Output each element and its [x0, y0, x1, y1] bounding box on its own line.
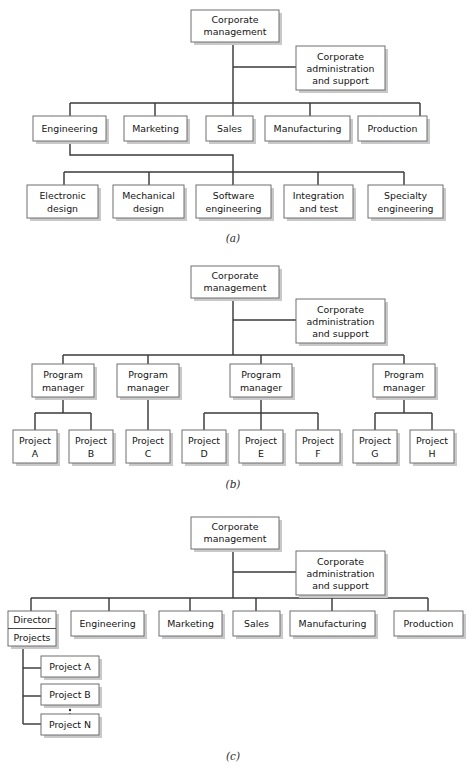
node-marketing-a[interactable]: Marketing	[124, 116, 190, 144]
node-label-line1: Program	[384, 369, 424, 380]
node-label: Sales	[244, 618, 269, 629]
panel-a: Corporate management Corporate administr…	[27, 10, 446, 244]
node-project-g-b[interactable]: Project G	[353, 430, 400, 466]
node-label-line1: Project	[245, 435, 277, 446]
node-label-line1: Mechanical	[122, 190, 175, 201]
node-label-line1: Director	[13, 614, 51, 625]
node-label-line2: engineering	[377, 203, 433, 214]
panel-caption-b: (b)	[226, 478, 241, 490]
node-sales-c[interactable]: Sales	[233, 611, 283, 639]
node-label-line2: Projects	[14, 632, 51, 643]
node-project-a-b[interactable]: Project A	[13, 430, 60, 466]
panel-b: Corporate management Corporate administr…	[13, 266, 457, 490]
node-manufacturing-a[interactable]: Manufacturing	[265, 116, 353, 144]
org-chart-canvas: Corporate management Corporate administr…	[0, 0, 469, 773]
node-label-line2: B	[88, 448, 94, 459]
node-label-line1: Program	[128, 369, 168, 380]
node-corporate-management-a[interactable]: Corporate management	[191, 10, 282, 45]
node-label-line2: manager	[42, 382, 84, 393]
node-project-e-b[interactable]: Project E	[239, 430, 286, 466]
node-label: Project A	[49, 661, 91, 672]
node-label-line1: Project	[188, 435, 220, 446]
node-label-line1: Program	[241, 369, 281, 380]
node-engineering-c[interactable]: Engineering	[71, 611, 147, 639]
node-label-line1: Software	[213, 190, 255, 201]
node-label-line1: Project	[75, 435, 107, 446]
node-program-manager-3-b[interactable]: Program manager	[230, 364, 295, 400]
node-label-line1: Electronic	[39, 190, 85, 201]
node-project-b-b[interactable]: Project B	[69, 430, 116, 466]
node-label: Project B	[49, 689, 91, 700]
node-program-manager-4-b[interactable]: Program manager	[373, 364, 438, 400]
node-corporate-administration-a[interactable]: Corporate administration and support	[296, 46, 388, 93]
node-specialty-engineering-a[interactable]: Specialty engineering	[368, 185, 446, 221]
node-label-line1: Specialty	[384, 190, 427, 201]
node-label-line2: administration	[306, 568, 374, 579]
node-corporate-management-b[interactable]: Corporate management	[191, 266, 282, 301]
node-sales-a[interactable]: Sales	[206, 116, 256, 144]
node-engineering-a[interactable]: Engineering	[33, 116, 109, 144]
node-label-line1: Corporate	[317, 304, 364, 315]
node-project-h-b[interactable]: Project H	[410, 430, 457, 466]
node-project-b-c[interactable]: Project B	[41, 684, 102, 708]
node-program-manager-2-b[interactable]: Program manager	[117, 364, 182, 400]
node-corporate-management-c[interactable]: Corporate management	[191, 517, 282, 552]
node-label-line2: manager	[240, 382, 282, 393]
node-label: Engineering	[79, 618, 135, 629]
node-label-line1: Corporate	[317, 51, 364, 62]
node-label-line2: administration	[306, 63, 374, 74]
node-label-line3: and support	[312, 328, 369, 339]
node-software-engineering-a[interactable]: Software engineering	[196, 185, 274, 221]
node-label-line2: G	[371, 448, 378, 459]
node-label-line1: Corporate	[317, 556, 364, 567]
node-corporate-administration-c[interactable]: Corporate administration and support	[296, 551, 388, 598]
node-project-d-b[interactable]: Project D	[182, 430, 229, 466]
node-label-line2: management	[204, 26, 267, 37]
node-label-line1: Project	[19, 435, 51, 446]
node-label-line2: engineering	[205, 203, 261, 214]
node-corporate-administration-b[interactable]: Corporate administration and support	[296, 299, 388, 346]
node-label-line1: Corporate	[212, 270, 259, 281]
node-electronic-design-a[interactable]: Electronic design	[27, 185, 101, 221]
node-label-line2: design	[47, 203, 78, 214]
node-label-line2: management	[204, 533, 267, 544]
node-label-line1: Corporate	[212, 14, 259, 25]
panel-caption-c: (c)	[226, 750, 240, 762]
node-label-line1: Integration	[293, 190, 345, 201]
node-label: Production	[404, 618, 454, 629]
node-production-a[interactable]: Production	[358, 116, 430, 144]
node-label-line2: and test	[299, 203, 338, 214]
node-label-line2: F	[315, 448, 320, 459]
node-director-projects-c[interactable]: Director Projects	[8, 611, 59, 649]
node-label: Production	[368, 123, 418, 134]
node-project-f-b[interactable]: Project F	[296, 430, 343, 466]
node-label-line1: Project	[132, 435, 164, 446]
node-label-line2: administration	[306, 316, 374, 327]
node-project-n-c[interactable]: Project N	[41, 714, 102, 738]
node-label-line2: management	[204, 282, 267, 293]
node-label-line1: Project	[302, 435, 334, 446]
node-project-c-b[interactable]: Project C	[126, 430, 173, 466]
node-label-line1: Project	[416, 435, 448, 446]
node-label: Marketing	[132, 123, 179, 134]
node-label-line1: Project	[359, 435, 391, 446]
node-program-manager-1-b[interactable]: Program manager	[32, 364, 97, 400]
panel-caption-a: (a)	[226, 232, 240, 244]
node-manufacturing-c[interactable]: Manufacturing	[290, 611, 378, 639]
node-label-line2: manager	[127, 382, 169, 393]
node-label: Manufacturing	[274, 123, 342, 134]
node-production-c[interactable]: Production	[394, 611, 466, 639]
node-project-a-c[interactable]: Project A	[41, 656, 102, 680]
node-label-line2: H	[428, 448, 435, 459]
node-label: Engineering	[41, 123, 97, 134]
node-label: Project N	[49, 719, 91, 730]
node-integration-and-test-a[interactable]: Integration and test	[284, 185, 356, 221]
node-label: Marketing	[167, 618, 214, 629]
node-label: Sales	[217, 123, 242, 134]
node-mechanical-design-a[interactable]: Mechanical design	[113, 185, 187, 221]
node-label-line2: D	[200, 448, 207, 459]
link-engineering-to-subbus-a	[70, 141, 233, 172]
node-marketing-c[interactable]: Marketing	[159, 611, 225, 639]
node-label-line1: Program	[43, 369, 83, 380]
panel-c: Corporate management Corporate administr…	[8, 517, 466, 762]
